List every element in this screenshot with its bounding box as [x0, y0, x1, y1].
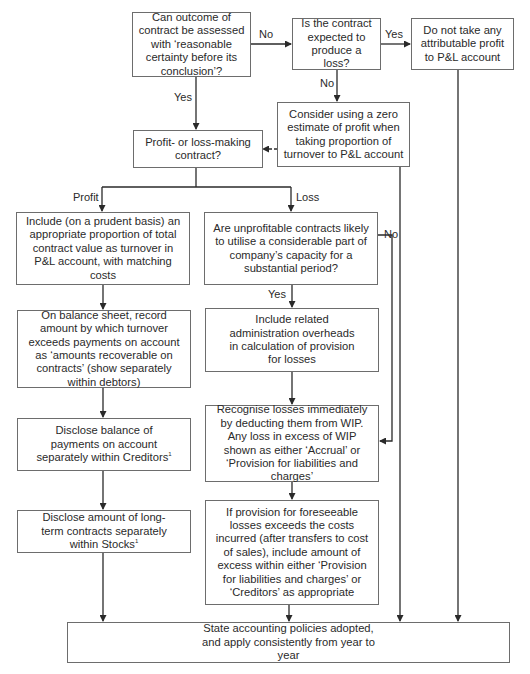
node-balance-sheet: On balance sheet, record amount by which… [17, 310, 191, 388]
node-disclose-longterm-text: Disclose amount of long-term contracts s… [41, 511, 167, 550]
footnote-marker: 1 [135, 538, 138, 544]
node-profit-loss-question-text: Profit- or loss-making contract? [139, 136, 257, 163]
node-disclose-payments: Disclose balance of payments on account … [17, 418, 191, 471]
edge-label-outcome-no: No [259, 28, 273, 40]
footnote-marker: 1 [168, 451, 171, 457]
node-loss-question-text: Is the contract expected to produce a lo… [298, 17, 375, 71]
edge-label-outcome-yes: Yes [174, 91, 192, 103]
node-include-prudent: Include (on a prudent basis) an appropri… [16, 212, 190, 285]
node-state-policies: State accounting policies adopted, and a… [67, 622, 510, 663]
edge-label-capacity-yes: Yes [268, 288, 286, 300]
node-include-prudent-text: Include (on a prudent basis) an appropri… [22, 215, 184, 282]
node-capacity-question-text: Are unprofitable contracts likely to uti… [210, 222, 372, 276]
node-capacity-question: Are unprofitable contracts likely to uti… [204, 212, 378, 285]
node-zero-estimate-text: Consider using a zero estimate of profit… [283, 108, 404, 162]
node-no-profit: Do not take any attributable profit to P… [411, 18, 514, 70]
node-recognise-losses: Recognise losses immediately by deductin… [205, 405, 379, 482]
node-outcome-question-text: Can outcome of contract be assessed with… [138, 11, 245, 78]
node-balance-sheet-text: On balance sheet, record amount by which… [23, 309, 185, 389]
edge-label-capacity-no: No [384, 228, 398, 240]
node-state-policies-text: State accounting policies adopted, and a… [198, 622, 379, 662]
node-no-profit-text: Do not take any attributable profit to P… [417, 24, 508, 64]
node-disclose-longterm: Disclose amount of long-term contracts s… [17, 510, 191, 553]
edge-label-loss-no: No [320, 77, 334, 89]
node-provision-excess: If provision for foreseeable losses exce… [205, 500, 379, 605]
node-disclose-payments-wrap: Disclose balance of payments on account … [32, 424, 176, 464]
edge-label-loss: Loss [296, 191, 319, 203]
node-loss-question: Is the contract expected to produce a lo… [292, 18, 381, 70]
node-disclose-payments-text: Disclose balance of payments on account … [36, 424, 168, 463]
node-zero-estimate: Consider using a zero estimate of profit… [277, 102, 410, 167]
node-include-overheads: Include related administration overheads… [205, 308, 379, 372]
node-recognise-losses-text: Recognise losses immediately by deductin… [211, 403, 373, 483]
edge-label-profit: Profit [73, 191, 99, 203]
node-profit-loss-question: Profit- or loss-making contract? [133, 130, 263, 168]
node-disclose-longterm-wrap: Disclose amount of long-term contracts s… [34, 511, 174, 551]
node-include-overheads-text: Include related administration overheads… [228, 313, 356, 367]
node-provision-excess-text: If provision for foreseeable losses exce… [211, 506, 373, 600]
node-outcome-question: Can outcome of contract be assessed with… [132, 12, 251, 77]
flowchart-canvas: Can outcome of contract be assessed with… [0, 0, 530, 674]
edge-label-loss-yes: Yes [385, 28, 403, 40]
